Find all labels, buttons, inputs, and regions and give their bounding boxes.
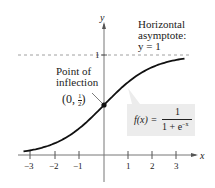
inflection-annotation: Point of inflection (56, 66, 98, 88)
inflection-point (101, 102, 106, 107)
formula-pointer (128, 88, 140, 104)
asymptote-annotation: Horizontal asymptote: y = 1 (138, 19, 186, 52)
inflection-coordinates: (0, 1 2 ) (62, 93, 86, 108)
x-axis-label: x (200, 150, 204, 161)
formula-box: f(x) = 1 1 + e−x (127, 104, 195, 136)
y-axis-label: y (100, 12, 104, 23)
y-axis-arrow (102, 22, 106, 29)
y-tick-1: 1 (95, 51, 100, 60)
x-axis-arrow (191, 153, 198, 157)
inflection-leader (92, 93, 102, 103)
